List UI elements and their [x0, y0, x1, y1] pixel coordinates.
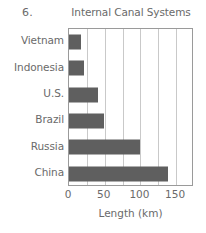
- x-axis-title: Length (km): [68, 207, 193, 219]
- bar: [69, 61, 84, 76]
- bar: [69, 35, 81, 50]
- category-label: U.S.: [0, 87, 64, 99]
- category-label: China: [0, 166, 64, 178]
- bar-row: [69, 108, 192, 134]
- category-label: Brazil: [0, 113, 64, 125]
- bar: [69, 140, 140, 155]
- problem-number-label: 6.: [22, 6, 33, 19]
- x-tick-label: 0: [65, 188, 72, 200]
- category-label: Indonesia: [0, 61, 64, 73]
- x-tick-label: 150: [165, 188, 185, 200]
- bar-row: [69, 161, 192, 186]
- bar-row: [69, 134, 192, 160]
- category-label: Russia: [0, 140, 64, 152]
- x-axis-tick-labels: 050100150: [68, 188, 193, 202]
- bar-row: [69, 29, 192, 55]
- plot-area: [68, 28, 193, 186]
- bar-row: [69, 55, 192, 81]
- bar-chart-figure: 6. Internal Canal Systems VietnamIndones…: [0, 0, 206, 233]
- x-tick-label: 50: [97, 188, 110, 200]
- chart-title: Internal Canal Systems: [68, 6, 194, 18]
- bar-row: [69, 82, 192, 108]
- bar: [69, 87, 98, 102]
- bar: [69, 114, 104, 129]
- bar: [69, 166, 168, 181]
- category-label: Vietnam: [0, 34, 64, 46]
- bars-container: [69, 29, 192, 185]
- x-tick-label: 100: [129, 188, 149, 200]
- category-axis-labels: VietnamIndonesiaU.S.BrazilRussiaChina: [0, 28, 64, 186]
